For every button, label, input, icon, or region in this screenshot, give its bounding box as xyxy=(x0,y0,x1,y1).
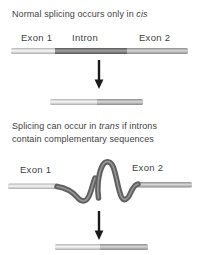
cis-caption-italic: cis xyxy=(136,9,147,19)
trans-caption-line1-pre: Splicing can occur in xyxy=(12,121,99,131)
exon2-segment xyxy=(100,244,148,250)
complementary-intron-curve xyxy=(57,162,138,201)
down-arrow-icon xyxy=(91,209,107,241)
cis-caption: Normal splicing occurs only in cis xyxy=(12,8,148,21)
intron2-curve xyxy=(98,162,138,200)
trans-spliced-product-bar xyxy=(55,244,148,250)
trans-caption-line1-post: if introns xyxy=(120,121,158,131)
intron1-curve xyxy=(57,178,95,201)
exon1-segment xyxy=(50,99,97,105)
exon1-segment xyxy=(55,244,100,250)
trans-caption-line1: Splicing can occur in trans if introns xyxy=(12,120,157,133)
intron-segment xyxy=(55,48,127,54)
down-arrow-icon xyxy=(91,58,107,90)
trans-exon1-strand xyxy=(8,184,59,190)
cis-exon1-label: Exon 1 xyxy=(21,32,52,43)
trans-exon2-strand xyxy=(136,182,192,188)
splicing-diagram: Normal splicing occurs only in cis Exon … xyxy=(0,0,199,255)
cis-spliced-product-bar xyxy=(50,99,143,105)
trans-pairing-diagram xyxy=(0,150,199,212)
trans-caption: Splicing can occur in trans if introns c… xyxy=(12,120,157,145)
exon2-segment xyxy=(127,48,188,54)
trans-caption-line2: contain complementary sequences xyxy=(12,133,157,146)
trans-caption-italic: trans xyxy=(99,121,119,131)
cis-exon2-label: Exon 2 xyxy=(139,32,170,43)
cis-intron-label: Intron xyxy=(72,32,98,43)
pre-mrna-bar xyxy=(11,48,188,54)
exon1-segment xyxy=(11,48,55,54)
cis-caption-text: Normal splicing occurs only in xyxy=(12,9,136,19)
exon2-segment xyxy=(97,99,143,105)
